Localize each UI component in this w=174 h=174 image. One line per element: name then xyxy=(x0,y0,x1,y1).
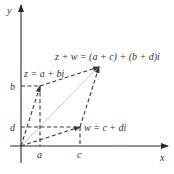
tick-label-c: c xyxy=(77,149,82,160)
y-axis-label: y xyxy=(6,5,12,16)
w-label: w = c + di xyxy=(84,122,127,133)
sum-label: z + w = (a + c) + (b + d)i xyxy=(54,51,160,63)
tick-label-a: a xyxy=(37,149,42,160)
x-axis-label: x xyxy=(159,152,165,163)
z-vector xyxy=(21,86,40,146)
tick-label-d: d xyxy=(10,122,16,133)
tick-label-b: b xyxy=(10,81,15,92)
complex-addition-diagram: y x b d a c z = a + bi w = c + di z + w … xyxy=(0,0,174,174)
z-label: z = a + bi xyxy=(23,68,64,79)
